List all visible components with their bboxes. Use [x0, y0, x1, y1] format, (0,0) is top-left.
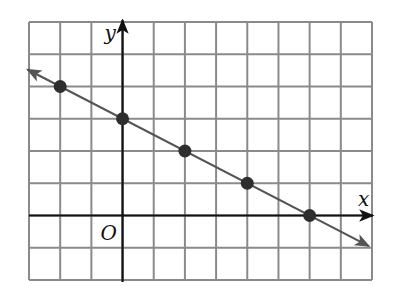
- data-point: [303, 209, 316, 222]
- data-point: [116, 112, 129, 125]
- data-series: [27, 70, 368, 247]
- x-axis-label: x: [358, 187, 369, 211]
- coordinate-graph: yxO: [0, 0, 396, 294]
- origin-label: O: [101, 221, 117, 245]
- line-plot: [27, 70, 368, 247]
- data-point: [178, 145, 191, 158]
- y-axis-label: y: [104, 21, 117, 45]
- data-point: [54, 80, 67, 93]
- grid: [29, 22, 372, 280]
- data-point: [241, 177, 254, 190]
